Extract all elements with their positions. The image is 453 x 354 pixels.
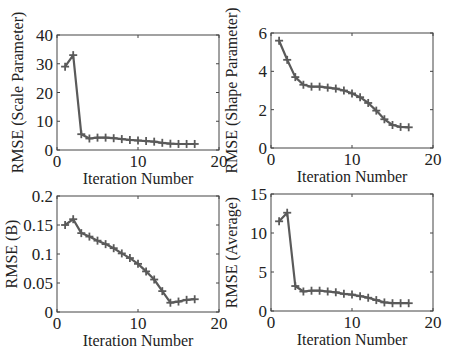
x-tick-label: 10 — [344, 313, 361, 332]
plus-marker-icon — [397, 299, 405, 307]
plus-marker-icon — [340, 290, 348, 298]
plus-marker-icon — [364, 294, 372, 302]
plus-marker-icon — [316, 287, 324, 295]
data-line — [279, 213, 409, 304]
plus-marker-icon — [348, 291, 356, 299]
plus-marker-icon — [308, 287, 316, 295]
plus-marker-icon — [324, 288, 332, 296]
y-tick-label: 10 — [250, 224, 267, 243]
plus-marker-icon — [405, 299, 413, 307]
plus-marker-icon — [380, 298, 388, 306]
x-axis-label: Iteration Number — [297, 331, 408, 348]
x-tick-label: 0 — [267, 313, 276, 332]
y-tick-label: 5 — [259, 263, 268, 282]
x-tick-label: 20 — [425, 313, 442, 332]
y-axis-label: RMSE (Average) — [223, 197, 241, 308]
plus-marker-icon — [389, 299, 397, 307]
plus-marker-icon — [332, 288, 340, 296]
plus-marker-icon — [356, 292, 364, 300]
plus-marker-icon — [372, 296, 380, 304]
y-tick-label: 15 — [250, 185, 267, 204]
y-tick-label: 0 — [259, 302, 268, 321]
